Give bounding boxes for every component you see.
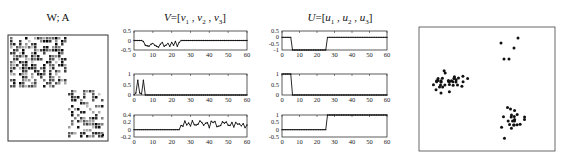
svg-text:0: 0	[132, 51, 135, 58]
svg-text:1: 1	[128, 70, 131, 77]
scatter-plot	[418, 26, 558, 154]
svg-text:10: 10	[150, 51, 157, 58]
svg-text:50: 50	[225, 51, 232, 58]
svg-text:-0.2: -0.2	[121, 133, 131, 140]
svg-text:0: 0	[280, 138, 283, 145]
svg-text:0: 0	[276, 91, 279, 98]
svg-text:50: 50	[225, 96, 232, 103]
svg-text:0: 0	[280, 51, 283, 58]
svg-text:1: 1	[276, 70, 279, 77]
svg-text:60: 60	[384, 51, 391, 58]
svg-text:20: 20	[168, 51, 175, 58]
svg-text:30: 30	[187, 138, 194, 145]
svg-text:40: 40	[349, 51, 356, 58]
svg-text:30: 30	[331, 51, 338, 58]
svg-text:40: 40	[206, 51, 213, 58]
svg-text:-0.5: -0.5	[269, 133, 279, 140]
svg-text:50: 50	[366, 96, 373, 103]
svg-text:0: 0	[128, 126, 131, 133]
svg-text:30: 30	[331, 96, 338, 103]
svg-text:0: 0	[132, 96, 135, 103]
svg-text:50: 50	[225, 138, 232, 145]
svg-text:0.2: 0.2	[123, 118, 131, 125]
svg-text:0.5: 0.5	[271, 81, 279, 88]
svg-text:10: 10	[150, 138, 157, 145]
svg-text:10: 10	[296, 96, 303, 103]
svg-text:20: 20	[314, 51, 321, 58]
svg-text:30: 30	[331, 138, 338, 145]
svg-text:60: 60	[244, 138, 251, 145]
svg-text:50: 50	[366, 51, 373, 58]
svg-text:60: 60	[244, 51, 251, 58]
matrix-plot	[6, 33, 112, 145]
matrix-title: W; A	[8, 11, 108, 23]
svg-text:30: 30	[187, 51, 194, 58]
v-plots: 0.50-0.5010203040506010.5001020304050600…	[115, 24, 263, 161]
svg-text:10: 10	[296, 138, 303, 145]
svg-text:0: 0	[132, 138, 135, 145]
svg-text:0: 0	[128, 91, 131, 98]
svg-text:10: 10	[150, 96, 157, 103]
svg-text:20: 20	[314, 96, 321, 103]
svg-text:40: 40	[349, 96, 356, 103]
svg-text:50: 50	[366, 138, 373, 145]
svg-text:0: 0	[276, 126, 279, 133]
svg-text:20: 20	[168, 96, 175, 103]
svg-text:60: 60	[384, 138, 391, 145]
svg-text:0: 0	[280, 96, 283, 103]
svg-text:30: 30	[187, 96, 194, 103]
svg-text:60: 60	[384, 96, 391, 103]
svg-text:40: 40	[206, 138, 213, 145]
svg-text:10: 10	[296, 51, 303, 58]
svg-text:40: 40	[206, 96, 213, 103]
svg-text:0: 0	[128, 37, 131, 44]
svg-text:0.5: 0.5	[123, 27, 131, 34]
svg-text:20: 20	[168, 138, 175, 145]
svg-text:-0.5: -0.5	[121, 46, 131, 53]
svg-text:20: 20	[314, 138, 321, 145]
svg-text:0.4: 0.4	[123, 111, 132, 118]
svg-text:40: 40	[349, 138, 356, 145]
svg-text:0.5: 0.5	[123, 81, 131, 88]
svg-text:60: 60	[244, 96, 251, 103]
u-plots: 0.50-0.5-1010203040506010.50010203040506…	[260, 24, 408, 161]
svg-text:0.5: 0.5	[271, 118, 279, 125]
svg-text:1: 1	[276, 111, 279, 118]
svg-text:-1: -1	[274, 46, 279, 53]
